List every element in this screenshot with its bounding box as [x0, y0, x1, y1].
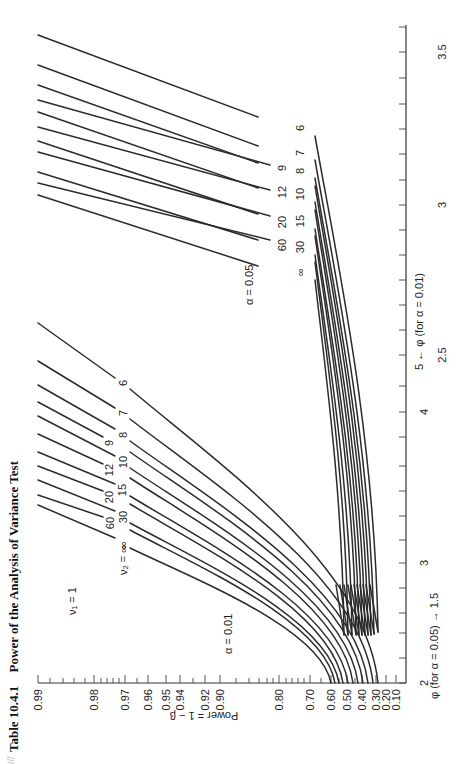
power-tick-label: 0.90 — [214, 689, 226, 710]
power-tick-label: 0.92 — [199, 689, 211, 710]
power-tick-label: 0.98 — [88, 689, 100, 710]
power-chart: Table 10.4.1 Power of the Analysis of Va… — [0, 0, 463, 764]
nu2-curve-label: 7 — [117, 410, 129, 416]
curve-alpha-005-nu2-15-lower — [315, 229, 359, 635]
power-tick-label: 0.50 — [341, 689, 353, 710]
curve-alpha-001-nu2-60-lower — [130, 530, 335, 683]
nu2-infinity-label: ν₂ = ∞ — [117, 545, 129, 575]
curve-alpha-001-nu2-9-upper — [38, 402, 103, 437]
curve-alpha-005-nu2-60-upper — [38, 183, 270, 240]
power-tick-label: 0.40 — [356, 689, 368, 710]
nu2-curve-label: 12 — [276, 186, 288, 198]
table-number: Table 10.4.1 — [6, 686, 21, 752]
nu2-curve-label: 8 — [294, 168, 306, 174]
phi-tick-label-alpha-005: 3 — [418, 560, 430, 566]
nu2-curve-label: 15 — [116, 484, 128, 496]
nu2-curve-label: ∞ — [294, 268, 306, 276]
power-axis: 0.990.980.970.960.950.940.920.900.800.70… — [32, 675, 406, 710]
nu2-curve-label: 8 — [117, 432, 129, 438]
nu2-curve-label: 60 — [104, 517, 116, 529]
curve-alpha-001-nu2-7-lower — [130, 419, 373, 683]
curve-alpha-005-nu2-9-upper — [38, 100, 270, 165]
power-axis-label: Power = 1 − β — [170, 710, 239, 722]
phi-tick-label-alpha-001: 3 — [436, 202, 448, 208]
alpha-005-curves: 6789101215203060∞ — [38, 35, 378, 635]
power-tick-label: 0.70 — [304, 689, 316, 710]
power-tick-label: 0.95 — [160, 689, 172, 710]
nu2-curve-label: 30 — [294, 241, 306, 253]
nu2-curve-label: 30 — [117, 511, 129, 523]
power-tick-label: 0.99 — [32, 689, 44, 710]
table-title: Table 10.4.1 Power of the Analysis of Va… — [6, 460, 21, 752]
nu2-curve-label: 9 — [276, 165, 288, 171]
nu2-curve-label: 7 — [294, 150, 306, 156]
nu2-curve-label: 6 — [117, 380, 129, 386]
power-tick-label: 0.96 — [142, 689, 154, 710]
power-tick-label: 0.94 — [174, 689, 186, 710]
page-mark: /// — [6, 756, 16, 764]
phi-tick-label-alpha-001: 3.5 — [436, 44, 448, 59]
curve-alpha-005-nu2-6-upper — [38, 35, 258, 117]
curve-alpha-001-nu2-12-lower — [130, 478, 353, 683]
nu2-curve-label: 9 — [103, 440, 115, 446]
figure-title: Power of the Analysis of Variance Test — [6, 460, 21, 672]
nu2-curve-label: 10 — [294, 188, 306, 200]
phi-axis-label-005: φ (for α = 0.05) → 1.5 — [428, 593, 440, 699]
power-tick-label: 0.60 — [325, 689, 337, 710]
power-tick-label: 0.80 — [273, 689, 285, 710]
nu2-curve-label: 6 — [294, 125, 306, 131]
power-tick-label: 0.97 — [119, 689, 131, 710]
curve-alpha-001-nu2-20-upper — [38, 466, 103, 491]
power-tick-label: 0.10 — [390, 689, 402, 710]
nu2-curve-label: 60 — [276, 239, 288, 251]
alpha-005-label: α = 0.05 — [243, 265, 255, 305]
nu1-label: ν₁ = 1 — [66, 587, 78, 615]
curve-alpha-005-nu2-12-upper — [38, 127, 270, 190]
nu2-curve-label: 12 — [103, 464, 115, 476]
nu2-curve-label: 20 — [103, 491, 115, 503]
curve-alpha-001-nu2-7-upper — [38, 361, 115, 408]
alpha-001-label: α = 0.01 — [222, 614, 234, 654]
nu2-curve-label: 10 — [117, 456, 129, 468]
phi-tick-label-alpha-001: 2.5 — [436, 347, 448, 362]
curve-alpha-001-nu2-12-upper — [38, 434, 103, 464]
curve-alpha-001-nu2-6-upper — [38, 323, 115, 378]
phi-tick-label-alpha-005: 4 — [418, 409, 430, 415]
phi-axis-label-001: 5 ← φ (for α = 0.01) — [413, 273, 425, 370]
curve-alpha-001-nu2-20-lower — [130, 504, 343, 683]
nu2-curve-label: 15 — [294, 215, 306, 227]
curve-alpha-001-nu2-60-upper — [38, 495, 103, 517]
nu2-curve-label: 20 — [276, 216, 288, 228]
